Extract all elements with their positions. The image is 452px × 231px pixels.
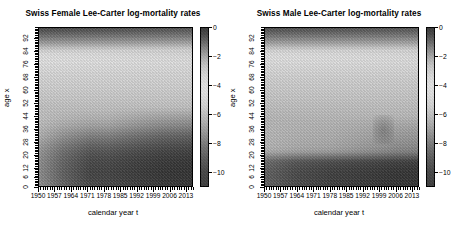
x-tick [327, 187, 328, 190]
y-tick [34, 177, 39, 178]
y-tick [261, 113, 264, 114]
y-tick [34, 168, 39, 169]
y-tick [35, 156, 38, 157]
y-tick [35, 88, 38, 89]
colorbar-tick [435, 27, 438, 28]
y-tick [260, 142, 265, 143]
x-tick [97, 187, 98, 190]
x-axis-labels-male: 1950195719641971197819851992199920062013 [226, 192, 452, 202]
x-tick [76, 187, 77, 190]
y-tick [35, 45, 38, 46]
panel-male: Swiss Male Lee-Carter log-mortality rate… [226, 0, 452, 231]
colorbar-tick [209, 143, 212, 144]
y-tick [261, 45, 264, 46]
y-tick-label: 36 [22, 122, 29, 136]
heatmap-noise-texture [264, 27, 419, 187]
colorbar-tick [435, 85, 438, 86]
x-tick [113, 187, 114, 190]
colorbar-tick-label: −6 [439, 111, 447, 118]
x-tick [130, 187, 131, 190]
y-tick [261, 166, 264, 167]
y-tick [261, 179, 264, 180]
y-tick-label: 44 [22, 109, 29, 123]
x-tick [353, 187, 354, 190]
x-tick [71, 187, 72, 192]
x-tick [116, 187, 117, 190]
y-tick-label: 68 [22, 70, 29, 84]
x-tick [273, 187, 274, 190]
y-tick-label: 20 [248, 148, 255, 162]
y-tick [35, 50, 38, 51]
y-tick [261, 42, 264, 43]
x-tick [283, 187, 284, 190]
y-tick [35, 185, 38, 186]
y-tick [35, 135, 38, 136]
y-tick [35, 67, 38, 68]
y-tick [35, 101, 38, 102]
y-tick [261, 85, 264, 86]
y-tick [35, 172, 38, 173]
y-tick [261, 111, 264, 112]
y-tick [260, 103, 265, 104]
y-tick [261, 87, 264, 88]
x-tick [344, 187, 345, 190]
x-axis-title-female: calendar year t [0, 208, 226, 217]
x-tick [302, 187, 303, 190]
y-tick [261, 158, 264, 159]
y-tick [35, 118, 38, 119]
y-tick [261, 121, 264, 122]
x-tick [363, 187, 364, 192]
x-tick-label: 1964 [290, 192, 305, 199]
x-tick [184, 187, 185, 190]
y-tick [261, 43, 264, 44]
y-tick [35, 160, 38, 161]
y-tick [260, 187, 265, 188]
y-tick [35, 87, 38, 88]
colorbar-tick [209, 56, 212, 57]
x-tick [325, 187, 326, 190]
y-tick [260, 129, 265, 130]
x-tick [59, 187, 60, 190]
y-tick [35, 106, 38, 107]
y-tick [261, 61, 264, 62]
y-tick [261, 35, 264, 36]
x-tick [358, 187, 359, 190]
x-tick [151, 187, 152, 190]
y-tick [261, 29, 264, 30]
y-tick-label: 12 [248, 161, 255, 175]
y-tick-label: 84 [248, 44, 255, 58]
y-tick [35, 153, 38, 154]
x-tick [290, 187, 291, 190]
y-tick [34, 64, 39, 65]
y-tick [35, 158, 38, 159]
y-tick [35, 37, 38, 38]
y-tick [261, 160, 264, 161]
x-tick [179, 187, 180, 190]
y-tick [35, 179, 38, 180]
y-tick [260, 90, 265, 91]
y-tick [35, 29, 38, 30]
x-tick [287, 187, 288, 190]
x-tick [320, 187, 321, 190]
panel-title-male: Swiss Male Lee-Carter log-mortality rate… [226, 9, 452, 18]
x-tick [144, 187, 145, 190]
colorbar-tick [435, 143, 438, 144]
x-tick [311, 187, 312, 190]
y-tick [261, 96, 264, 97]
y-tick [34, 90, 39, 91]
x-tick [90, 187, 91, 190]
heatmap-male [264, 27, 419, 187]
x-tick [339, 187, 340, 190]
y-tick [35, 176, 38, 177]
colorbar-tick-label: 0 [213, 24, 217, 31]
x-axis-labels-female: 1950195719641971197819851992199920062013 [0, 192, 226, 202]
x-tick [160, 187, 161, 190]
x-tick [412, 187, 413, 192]
y-tick [261, 151, 264, 152]
x-tick [191, 187, 192, 190]
y-tick [261, 161, 264, 162]
x-tick [134, 187, 135, 190]
colorbar-labels-male: 0−2−4−6−8−10 [439, 27, 452, 187]
x-tick [87, 187, 88, 192]
x-tick [155, 187, 156, 190]
